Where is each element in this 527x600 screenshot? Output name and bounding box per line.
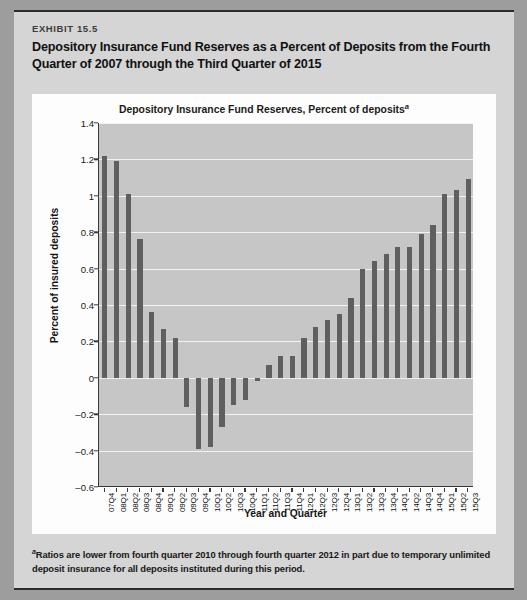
x-tick-mark bbox=[198, 488, 199, 492]
bar bbox=[114, 161, 119, 378]
x-tick-mark bbox=[467, 488, 468, 492]
y-tick-label: 1.2 bbox=[34, 154, 94, 165]
bar bbox=[102, 156, 107, 378]
x-tick-mark bbox=[303, 488, 304, 492]
x-tick-mark bbox=[268, 488, 269, 492]
y-tick-label: 0.4 bbox=[34, 300, 94, 311]
bar bbox=[395, 247, 400, 378]
exhibit-title: Depository Insurance Fund Reserves as a … bbox=[32, 39, 496, 74]
x-tick-mark bbox=[209, 488, 210, 492]
x-tick-mark bbox=[420, 488, 421, 492]
x-tick-mark bbox=[362, 488, 363, 492]
bar bbox=[137, 239, 142, 377]
bar bbox=[149, 312, 154, 378]
bar bbox=[384, 254, 389, 378]
bar bbox=[419, 234, 424, 378]
bar bbox=[243, 378, 248, 400]
bar bbox=[184, 378, 189, 407]
x-tick-mark bbox=[221, 488, 222, 492]
x-axis-title: Year and Quarter bbox=[98, 508, 473, 519]
bar bbox=[161, 329, 166, 378]
bar bbox=[301, 338, 306, 378]
x-tick-mark bbox=[244, 488, 245, 492]
bar bbox=[325, 320, 330, 378]
y-tick-label: 0.2 bbox=[34, 336, 94, 347]
x-tick-mark bbox=[338, 488, 339, 492]
bar bbox=[348, 298, 353, 378]
x-tick-mark bbox=[291, 488, 292, 492]
bar bbox=[196, 378, 201, 449]
x-tick-mark bbox=[139, 488, 140, 492]
y-tick-label: 0.8 bbox=[34, 227, 94, 238]
x-tick-mark bbox=[186, 488, 187, 492]
x-tick-mark bbox=[397, 488, 398, 492]
x-tick-mark bbox=[385, 488, 386, 492]
x-tick-mark bbox=[174, 488, 175, 492]
x-tick-mark bbox=[373, 488, 374, 492]
bar bbox=[126, 194, 131, 378]
x-tick-mark bbox=[256, 488, 257, 492]
bar bbox=[407, 247, 412, 378]
x-tick-mark bbox=[444, 488, 445, 492]
bar bbox=[372, 261, 377, 377]
bar bbox=[466, 179, 471, 377]
bar bbox=[255, 378, 260, 382]
bar bbox=[219, 378, 224, 427]
bar bbox=[454, 190, 459, 377]
x-tick-mark bbox=[409, 488, 410, 492]
y-tick-label: 0.6 bbox=[34, 263, 94, 274]
y-tick-label: 1.4 bbox=[34, 118, 94, 129]
bar bbox=[442, 194, 447, 378]
bar bbox=[231, 378, 236, 405]
bar bbox=[430, 225, 435, 378]
x-tick-mark bbox=[116, 488, 117, 492]
y-tick-label: 0 bbox=[34, 372, 94, 383]
x-tick-mark bbox=[162, 488, 163, 492]
x-tick-mark bbox=[432, 488, 433, 492]
exhibit-footnote: aRatios are lower from fourth quarter 20… bbox=[32, 547, 496, 576]
y-axis-ticks: 1.41.210.80.60.40.20–0.2–0.4–0.6 bbox=[32, 123, 94, 487]
bar bbox=[266, 365, 271, 378]
figure-panel: Depository Insurance Fund Reserves, Perc… bbox=[32, 94, 496, 534]
x-tick-mark bbox=[280, 488, 281, 492]
footnote-text: Ratios are lower from fourth quarter 201… bbox=[32, 549, 490, 574]
x-tick-mark bbox=[327, 488, 328, 492]
x-tick-mark bbox=[350, 488, 351, 492]
bar bbox=[290, 356, 295, 378]
chart-axes: Percent of insured deposits 1.41.210.80.… bbox=[32, 94, 496, 534]
exhibit-number: EXHIBIT 15.5 bbox=[32, 23, 496, 34]
plot-area bbox=[98, 123, 473, 487]
bar bbox=[360, 269, 365, 378]
bar bbox=[313, 327, 318, 378]
bar-series bbox=[99, 123, 473, 486]
bar bbox=[208, 378, 213, 447]
y-tick-label: 1 bbox=[34, 190, 94, 201]
bar bbox=[278, 356, 283, 378]
x-tick-mark bbox=[233, 488, 234, 492]
y-tick-label: –0.2 bbox=[34, 409, 94, 420]
exhibit-card: EXHIBIT 15.5 Depository Insurance Fund R… bbox=[14, 10, 514, 590]
y-tick-label: –0.4 bbox=[34, 445, 94, 456]
bar bbox=[173, 338, 178, 378]
bar bbox=[337, 314, 342, 378]
x-tick-mark bbox=[315, 488, 316, 492]
x-tick-mark bbox=[455, 488, 456, 492]
x-tick-mark bbox=[127, 488, 128, 492]
exhibit-header: EXHIBIT 15.5 Depository Insurance Fund R… bbox=[14, 12, 514, 82]
x-tick-mark bbox=[104, 488, 105, 492]
y-tick-label: –0.6 bbox=[34, 482, 94, 493]
x-tick-mark bbox=[151, 488, 152, 492]
